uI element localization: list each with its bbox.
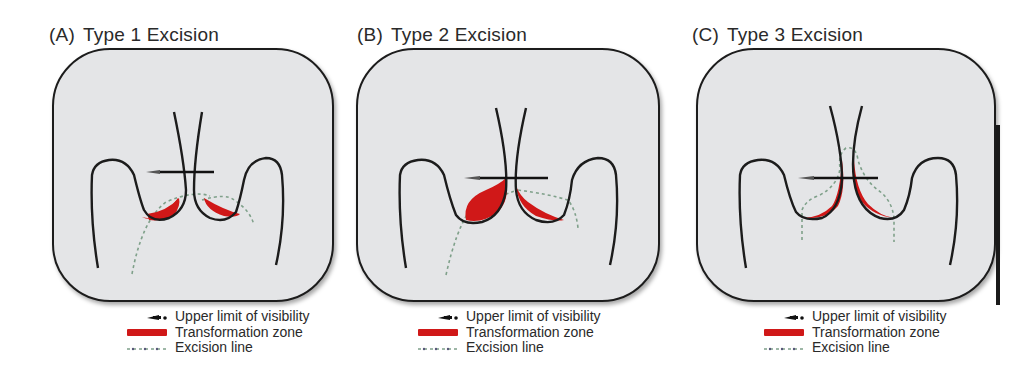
panel-c-legend: Upper limit of visibility Transformation…	[762, 309, 947, 356]
excision-line-swatch-icon	[125, 342, 169, 354]
panel-b-title-text: Type 2 Excision	[391, 24, 527, 45]
legend-transformation-zone-label: Transformation zone	[466, 325, 594, 341]
cervix-diagram-c	[698, 50, 994, 300]
legend-excision-line-label: Excision line	[175, 340, 253, 356]
legend-upper-limit-label: Upper limit of visibility	[175, 309, 310, 325]
transformation-zone-swatch-icon	[762, 326, 806, 338]
excision-line-swatch-icon	[416, 342, 460, 354]
upper-limit-icon	[416, 311, 460, 323]
legend-transformation-zone: Transformation zone	[762, 325, 947, 341]
legend-upper-limit-label: Upper limit of visibility	[812, 309, 947, 325]
panel-c-title-text: Type 3 Excision	[727, 24, 863, 45]
panel-a-title: (A)Type 1 Excision	[49, 24, 219, 46]
upper-limit-icon	[125, 311, 169, 323]
legend-transformation-zone-label: Transformation zone	[812, 325, 940, 341]
upper-limit-icon	[762, 311, 806, 323]
panel-a-title-text: Type 1 Excision	[83, 24, 219, 45]
legend-excision-line-label: Excision line	[812, 340, 890, 356]
cervix-diagram-b	[358, 50, 658, 300]
transformation-zone-swatch-icon	[125, 326, 169, 338]
legend-upper-limit: Upper limit of visibility	[762, 309, 947, 325]
panel-c-diagram	[696, 48, 996, 302]
legend-transformation-zone: Transformation zone	[416, 325, 601, 341]
legend-excision-line-label: Excision line	[466, 340, 544, 356]
legend-transformation-zone-label: Transformation zone	[175, 325, 303, 341]
panel-a-legend: Upper limit of visibility Transformation…	[125, 309, 310, 356]
panel-b: (B)Type 2 Excision Upper limit of visibi…	[340, 0, 680, 391]
excision-line-swatch-icon	[762, 342, 806, 354]
panel-b-diagram	[356, 48, 660, 302]
legend-excision-line: Excision line	[416, 340, 601, 356]
legend-upper-limit: Upper limit of visibility	[416, 309, 601, 325]
panel-c-title: (C)Type 3 Excision	[692, 24, 863, 46]
panel-a-label: (A)	[49, 24, 75, 45]
panel-c: (C)Type 3 Excision Upper limit of visibi…	[680, 0, 1018, 391]
legend-excision-line: Excision line	[762, 340, 947, 356]
legend-transformation-zone: Transformation zone	[125, 325, 310, 341]
cervix-diagram-a	[54, 50, 332, 300]
legend-upper-limit: Upper limit of visibility	[125, 309, 310, 325]
panel-b-title: (B)Type 2 Excision	[357, 24, 527, 46]
edge-bar	[996, 125, 1000, 305]
panel-b-legend: Upper limit of visibility Transformation…	[416, 309, 601, 356]
panel-a: (A)Type 1 Excision Upper limit of visibi…	[0, 0, 340, 391]
transformation-zone-swatch-icon	[416, 326, 460, 338]
legend-excision-line: Excision line	[125, 340, 310, 356]
panel-c-label: (C)	[692, 24, 719, 45]
panel-b-label: (B)	[357, 24, 383, 45]
panel-a-diagram	[52, 48, 334, 302]
legend-upper-limit-label: Upper limit of visibility	[466, 309, 601, 325]
